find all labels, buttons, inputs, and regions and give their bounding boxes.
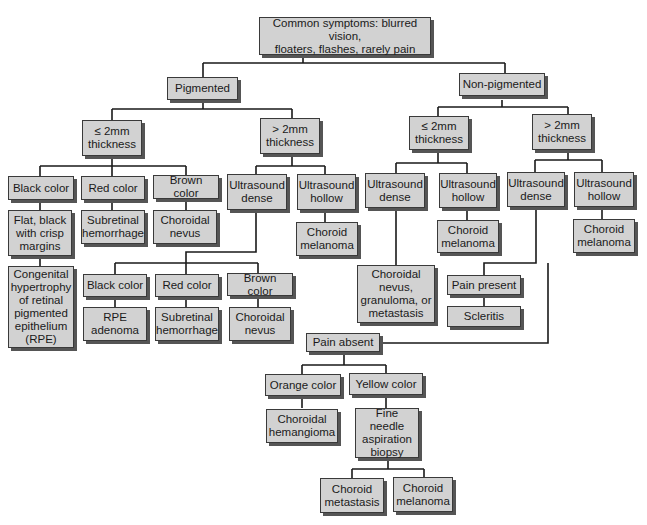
- np-gt2-choroid-melanoma-node: Choroid melanoma: [573, 219, 635, 253]
- p-gt2-subretinal-hemorrhage-node: Subretinal hemorrhage: [155, 307, 219, 341]
- scleritis-node: Scleritis: [447, 306, 521, 327]
- pigmented-le2mm-node: ≤ 2mm thickness: [82, 120, 142, 156]
- p-gt2-brown-color-node: Brown color: [227, 273, 293, 296]
- pigmented-gt2mm-node: > 2mm thickness: [260, 118, 320, 154]
- pain-absent-node: Pain absent: [306, 333, 380, 352]
- p-le2-red-color-node: Red color: [81, 176, 145, 200]
- p-le2-subretinal-hemorrhage-node: Subretinal hemorrhage: [81, 210, 145, 244]
- np-gt2-ultrasound-dense-node: Ultrasound dense: [507, 172, 565, 207]
- p-le2-black-color-node: Black color: [8, 176, 74, 200]
- yellow-color-node: Yellow color: [349, 373, 423, 395]
- pigmented-node: Pigmented: [167, 77, 238, 100]
- p-gt2-red-color-node: Red color: [155, 274, 219, 297]
- p-gt2-ultrasound-dense-node: Ultrasound dense: [227, 174, 287, 210]
- pain-present-node: Pain present: [447, 275, 521, 295]
- nonpigmented-gt2mm-node: > 2mm thickness: [532, 114, 592, 150]
- choroid-metastasis-node: Choroid metastasis: [320, 478, 384, 513]
- p-gt2-black-color-node: Black color: [83, 274, 147, 297]
- connector-lines: [0, 0, 647, 525]
- choroidal-nevus-granuloma-metastasis-node: Choroidal nevus, granuloma, or metastasi…: [357, 265, 435, 323]
- fine-needle-aspiration-biopsy-node: Fine needle aspiration biopsy: [355, 408, 419, 458]
- np-gt2-ultrasound-hollow-node: Ultrasound hollow: [574, 172, 634, 207]
- rpe-adenoma-node: RPE adenoma: [83, 307, 147, 341]
- flowchart-canvas: Common symptoms: blurred vision, floater…: [0, 0, 647, 525]
- chrpe-node: Congenital hypertrophy of retinal pigmen…: [8, 266, 74, 348]
- p-gt2-ultrasound-hollow-node: Ultrasound hollow: [297, 174, 356, 210]
- p-le2-brown-color-node: Brown color: [153, 175, 219, 199]
- p-gt2-choroidal-nevus-node: Choroidal nevus: [229, 307, 291, 341]
- p-gt2-choroid-melanoma-node: Choroid melanoma: [296, 222, 358, 256]
- flat-black-crisp-margins-node: Flat, black with crisp margins: [8, 210, 72, 256]
- np-le2-ultrasound-hollow-node: Ultrasound hollow: [439, 173, 497, 208]
- choroidal-hemangioma-node: Choroidal hemangioma: [266, 409, 338, 443]
- orange-color-node: Orange color: [265, 374, 341, 396]
- np-le2-choroid-melanoma-node: Choroid melanoma: [437, 220, 499, 253]
- non-pigmented-node: Non-pigmented: [459, 73, 545, 96]
- biopsy-choroid-melanoma-node: Choroid melanoma: [393, 477, 453, 512]
- np-le2-ultrasound-dense-node: Ultrasound dense: [365, 173, 425, 208]
- root-symptoms-node: Common symptoms: blurred vision, floater…: [259, 17, 431, 55]
- nonpigmented-le2mm-node: ≤ 2mm thickness: [409, 116, 469, 150]
- p-le2-choroidal-nevus-node: Choroidal nevus: [153, 210, 217, 244]
